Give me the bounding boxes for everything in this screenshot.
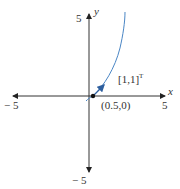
curve	[86, 12, 125, 101]
y-axis-label: y	[94, 6, 99, 17]
plot-canvas	[0, 0, 180, 189]
x-min-label: − 5	[4, 100, 18, 111]
point-label: (0.5,0)	[101, 100, 130, 111]
vector-label: [1,1]T	[118, 73, 143, 85]
vector-label-superscript: T	[139, 72, 143, 80]
vector-label-text: [1,1]	[118, 73, 139, 85]
point-marker	[91, 94, 95, 98]
y-max-label: 5	[76, 13, 82, 24]
tangent-vector-arrow	[93, 85, 104, 96]
x-max-label: 5	[162, 100, 168, 111]
y-min-label: − 5	[72, 175, 86, 186]
x-axis-label: x	[168, 86, 173, 97]
